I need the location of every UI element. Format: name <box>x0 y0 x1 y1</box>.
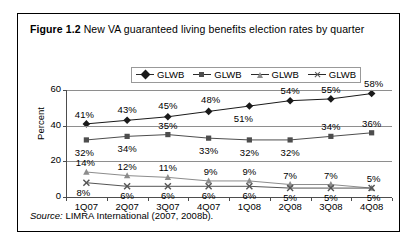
figure-container: Figure 1.2 New VA guaranteed living bene… <box>17 13 400 232</box>
data-label: 35% <box>153 120 183 131</box>
y-axis-tick: 0 <box>39 190 61 201</box>
source-label: Source: <box>30 210 63 221</box>
data-label: 6% <box>194 190 224 201</box>
diamond-marker <box>286 97 294 105</box>
data-label: 43% <box>112 104 142 115</box>
data-label: 11% <box>153 162 183 173</box>
x-axis-tickmark <box>188 198 189 201</box>
triangle-marker <box>83 169 89 175</box>
square-marker <box>206 136 211 141</box>
x-axis-tick-1q08: 1Q08 <box>229 201 269 212</box>
y-axis-tick: 40 <box>39 119 61 130</box>
data-label: 6% <box>112 190 142 201</box>
data-label: 51% <box>228 113 258 124</box>
data-label: 5% <box>316 192 346 203</box>
diamond-marker <box>205 108 213 116</box>
data-label: 54% <box>275 85 305 96</box>
plot-area: Percent 02040601Q072Q073Q074Q071Q082Q083… <box>18 14 401 233</box>
diamond-marker <box>246 102 254 110</box>
x-axis-tickmark <box>229 198 230 201</box>
data-label: 58% <box>359 78 389 89</box>
x-axis-tickmark <box>311 198 312 201</box>
data-label: 6% <box>234 190 264 201</box>
data-label: 12% <box>112 161 142 172</box>
source-text: LIMRA International (2007, 2008b). <box>65 210 213 221</box>
data-label: 7% <box>275 170 305 181</box>
square-marker <box>125 134 130 139</box>
diamond-marker <box>327 95 335 103</box>
data-label: 14% <box>70 157 100 168</box>
data-label: 45% <box>153 100 183 111</box>
x-axis-tickmark <box>270 198 271 201</box>
y-axis-tick: 60 <box>39 83 61 94</box>
data-label: 55% <box>316 84 346 95</box>
square-marker <box>165 132 170 137</box>
data-label: 5% <box>359 173 389 184</box>
y-axis-line <box>66 90 67 197</box>
data-label: 5% <box>359 192 389 203</box>
data-label: 7% <box>316 170 346 181</box>
x-axis-tickmark <box>392 198 393 201</box>
x-axis-tickmark <box>66 198 67 201</box>
data-label: 34% <box>316 121 346 132</box>
data-label: 34% <box>112 143 142 154</box>
square-marker <box>247 137 252 142</box>
data-label: 9% <box>196 166 226 177</box>
x-axis-tickmark <box>107 198 108 201</box>
square-marker <box>84 137 89 142</box>
data-label: 8% <box>68 187 98 198</box>
x-axis-tickmark <box>351 198 352 201</box>
data-label: 36% <box>357 118 387 129</box>
data-label: 33% <box>194 145 224 156</box>
data-label: 32% <box>234 147 264 158</box>
square-marker <box>288 137 293 142</box>
data-label: 41% <box>69 109 99 120</box>
square-marker <box>369 130 374 135</box>
y-axis-tick: 20 <box>39 154 61 165</box>
square-marker <box>328 134 333 139</box>
diamond-marker <box>123 117 131 125</box>
data-label: 48% <box>196 94 226 105</box>
data-label: 9% <box>234 166 264 177</box>
x-axis-tickmark <box>148 198 149 201</box>
data-label: 5% <box>275 192 305 203</box>
source-note: Source: LIMRA International (2007, 2008b… <box>30 210 213 221</box>
data-label: 6% <box>153 190 183 201</box>
data-label: 32% <box>275 147 305 158</box>
